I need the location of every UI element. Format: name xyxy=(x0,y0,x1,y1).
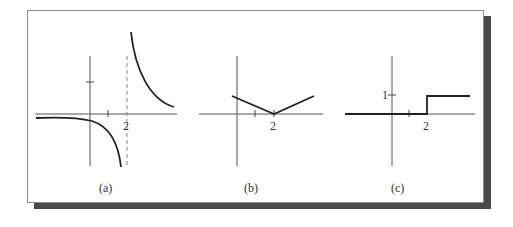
x-label: 2 xyxy=(423,119,429,133)
x-label: 2 xyxy=(270,119,276,133)
step-curve xyxy=(345,96,470,114)
panel-caption: (a) xyxy=(99,181,112,195)
curve-right xyxy=(131,32,174,107)
panel-caption: (c) xyxy=(391,181,404,195)
x-label: 2 xyxy=(123,119,129,133)
plots-canvas: 2 (a) 2 (b) 1 2 (c) xyxy=(0,0,513,227)
curve-left xyxy=(36,118,121,167)
panel-caption: (b) xyxy=(244,181,258,195)
v-curve xyxy=(232,96,314,114)
panel-b: 2 (b) xyxy=(199,56,323,195)
y-label: 1 xyxy=(382,88,388,102)
panel-a: 2 (a) xyxy=(35,32,177,195)
panel-c: 1 2 (c) xyxy=(345,56,475,195)
